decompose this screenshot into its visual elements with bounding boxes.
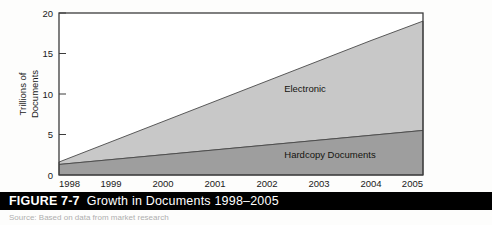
y-axis-title-part: Documents: [29, 70, 40, 118]
figure-number: FIGURE 7-7: [9, 194, 80, 208]
x-tick-label: 2004: [360, 178, 381, 188]
series-label-hardcopy: Hardcopy Documents: [284, 149, 376, 160]
figure-caption-bar: FIGURE 7-7Growth in Documents 1998–2005: [0, 192, 492, 210]
chart-area: 05101520 1998199920002001200220032004200…: [0, 0, 492, 188]
x-tick-label: 2000: [152, 178, 173, 188]
y-tick-label: 10: [42, 89, 53, 100]
x-tick-label: 2003: [308, 178, 329, 188]
x-tick-label: 1999: [100, 178, 121, 188]
y-tick-label: 20: [42, 8, 53, 19]
series-label-electronic: Electronic: [284, 83, 326, 94]
y-axis-title-part: Trillions of: [17, 72, 28, 115]
y-tick-label: 0: [48, 170, 53, 181]
y-tick-label: 5: [48, 129, 53, 140]
y-axis-title-line1: Trillions ofDocuments: [17, 70, 40, 118]
source-note: Source: Based on data from market resear…: [9, 213, 479, 222]
x-tick-label: 2005: [402, 178, 423, 188]
x-tick-label: 2002: [256, 178, 277, 188]
x-tick-label: 1998: [59, 178, 80, 188]
figure-title: Growth in Documents 1998–2005: [87, 194, 279, 208]
figure-caption-text: FIGURE 7-7Growth in Documents 1998–2005: [0, 194, 279, 208]
stacked-area-chart: 05101520 1998199920002001200220032004200…: [0, 0, 492, 188]
x-tick-label: 2001: [204, 178, 225, 188]
figure-container: 05101520 1998199920002001200220032004200…: [0, 0, 492, 225]
y-tick-label: 15: [42, 48, 53, 59]
x-axis: 19981999200020012002200320042005: [59, 178, 423, 188]
